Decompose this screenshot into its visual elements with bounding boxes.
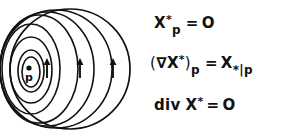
eq1-lhs-subscript: p	[172, 23, 181, 37]
eq3-operator: div	[154, 96, 181, 114]
sphere-diagram: p	[0, 0, 145, 138]
point-p-label: p	[25, 71, 33, 84]
eq2-symbol: X	[167, 54, 179, 72]
point-p-dot	[26, 65, 31, 70]
eq1-rhs: O	[202, 14, 215, 32]
eq2-subscript: p	[191, 63, 200, 77]
level-set-curve-6	[0, 10, 112, 128]
equation-line-2: (∇X*)p=X*|p	[150, 52, 253, 75]
equation-block: X*p=O (∇X*)p=X*|p divX*=O	[150, 6, 283, 132]
equation-line-1: X*p=O	[154, 12, 215, 35]
eq2-superscript: *	[179, 53, 185, 66]
level-set-curve-4	[0, 15, 78, 123]
eq3-rhs: O	[222, 96, 235, 114]
eq3-relation: =	[207, 96, 220, 114]
eq3-superscript: *	[197, 95, 203, 108]
level-set-curve-2	[10, 37, 52, 103]
eq1-relation: =	[186, 14, 199, 32]
eq2-rhs-point: p	[244, 63, 253, 77]
figure-root: p X*p=O (∇X*)p=X*|p divX*=O	[0, 0, 283, 138]
eq2-relation: =	[205, 54, 218, 72]
eq1-lhs-symbol: X	[154, 14, 166, 32]
eq2-rhs-symbol: X	[221, 54, 233, 72]
vector-arrow-3	[110, 58, 117, 78]
equation-line-3: divX*=O	[154, 94, 235, 114]
eq3-symbol: X	[186, 96, 198, 114]
nabla-icon: ∇	[156, 54, 167, 72]
